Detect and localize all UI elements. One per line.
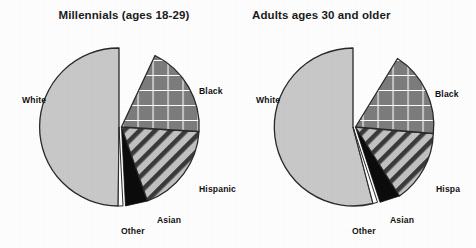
pie-chart-panel-adults: Adults ages 30 and older xyxy=(240,0,476,248)
pie-millennials xyxy=(0,0,248,248)
pie-slice-black-adults xyxy=(356,59,434,134)
pie-label-hispanic-millennials: Hispanic xyxy=(199,184,236,194)
pie-adults xyxy=(240,0,476,248)
pie-label-black-adults: Black xyxy=(435,89,459,99)
pie-chart-panel-millennials: Millennials (ages 18-29) xyxy=(0,0,248,248)
pie-slice-black-millennials xyxy=(122,56,200,132)
pie-label-other-millennials: Other xyxy=(121,226,145,236)
two-pie-chart-figure: Millennials (ages 18-29) xyxy=(0,0,476,248)
pie-label-white-adults: White xyxy=(256,95,280,105)
pie-label-asian-millennials: Asian xyxy=(157,215,181,225)
pie-label-white-millennials: White xyxy=(22,95,46,105)
pie-label-hispanic-adults: Hispa xyxy=(436,184,460,194)
pie-label-other-adults: Other xyxy=(352,226,376,236)
pie-label-black-millennials: Black xyxy=(199,86,223,96)
pie-label-asian-adults: Asian xyxy=(390,215,414,225)
pie-slice-white-millennials xyxy=(40,48,119,206)
